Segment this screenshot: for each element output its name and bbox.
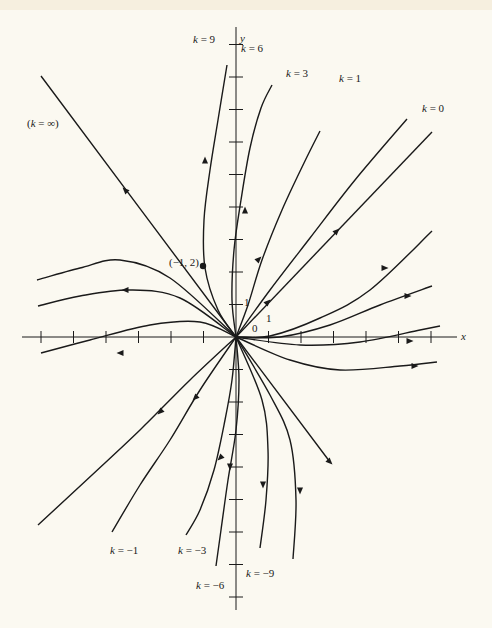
- direction-arrow-icon: [218, 453, 225, 460]
- solution-curve: [236, 337, 296, 559]
- coordinate-axes: [22, 27, 457, 610]
- curve-label: k = −1: [110, 544, 138, 556]
- curve-label: k = 3: [286, 67, 308, 79]
- solution-curves-plot: [0, 0, 492, 628]
- solution-curve: [38, 337, 236, 525]
- solution-curve: [186, 337, 236, 535]
- direction-arrow-icon: [242, 207, 248, 214]
- direction-arrow-icon: [117, 350, 124, 356]
- direction-arrow-icon: [202, 157, 208, 164]
- origin-label: 0: [252, 322, 258, 334]
- direction-arrow-icon: [122, 287, 129, 293]
- point-label: (−1, 2): [169, 256, 199, 268]
- curve-label: k = 6: [241, 42, 263, 54]
- solution-curve: [232, 85, 272, 337]
- curve-label: k = −6: [196, 579, 224, 591]
- direction-arrow-icon: [193, 393, 200, 400]
- curve-label: k = 1: [339, 72, 361, 84]
- x-unit-label: 1: [266, 312, 272, 324]
- solution-curve: [112, 337, 236, 532]
- y-unit-label: 1: [244, 296, 250, 308]
- solution-curve: [236, 337, 268, 548]
- direction-arrow-icon: [297, 488, 303, 495]
- curve-label: k = 9: [193, 33, 215, 45]
- direction-arrow-icon: [382, 265, 389, 271]
- direction-field-diagram: y x 0 1 1 (−1, 2) k = 9k = 6k = 3k = 1k …: [0, 0, 492, 628]
- solution-curve: [203, 65, 236, 337]
- solution-curve: [236, 132, 432, 337]
- curve-label: k = −9: [246, 567, 274, 579]
- solution-curves: [37, 65, 440, 566]
- curve-label: k = −3: [178, 544, 206, 556]
- marked-point: [200, 263, 206, 269]
- x-axis-label: x: [461, 330, 466, 342]
- curve-label: k = 0: [422, 102, 444, 114]
- direction-arrow-icon: [407, 338, 414, 344]
- curve-label: (k = ∞): [27, 117, 59, 129]
- direction-arrow-icon: [260, 482, 266, 489]
